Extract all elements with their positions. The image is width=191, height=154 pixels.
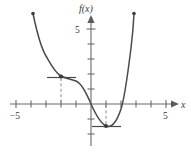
plot-canvas: f(x) x −5 5 5 [0,0,191,154]
y-tick-label-five: 5 [75,25,80,35]
local-minimum-dot [104,124,108,128]
x-axis-group [10,100,179,108]
inflection-point-dot [59,74,63,78]
y-axis-arrow-icon [87,15,94,23]
x-axis-variable-label: x [180,99,186,110]
curve-endpoint-left [31,12,35,16]
y-axis-function-label: f(x) [79,3,94,15]
function-graph-figure: f(x) x −5 5 5 [0,0,191,154]
x-axis-arrow-icon [171,100,179,107]
function-curve [33,14,134,127]
x-tick-label-pos-five: 5 [163,111,168,121]
curve-endpoint-right [132,12,136,16]
x-tick-label-neg-five: −5 [10,111,20,121]
